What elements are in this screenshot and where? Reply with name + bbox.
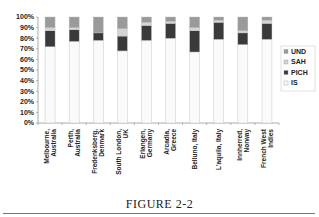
bar-segment-is — [262, 39, 272, 123]
bar-stack — [69, 17, 79, 123]
bar-segment-is — [45, 47, 55, 123]
bar-stack — [190, 17, 200, 123]
bar-segment-sah — [141, 22, 151, 25]
legend-label: PICH — [291, 69, 308, 76]
legend-label: UND — [291, 48, 306, 55]
legend-swatch — [284, 50, 288, 54]
legend-swatch — [284, 60, 288, 64]
y-tick-label: 30% — [20, 88, 35, 95]
bar-segment-is — [93, 40, 103, 123]
y-tick-label: 20% — [20, 98, 35, 105]
bar-segment-und — [117, 17, 127, 29]
bar-segment-und — [93, 17, 103, 33]
bar-segment-pich — [238, 33, 248, 45]
bar-segment-und — [45, 17, 55, 28]
bar-stack — [45, 17, 55, 123]
x-tick-label: Perth,Australia — [67, 129, 81, 157]
svg-text:Germany: Germany — [146, 129, 154, 158]
bar-segment-pich — [93, 33, 103, 40]
x-tick-label: Belluno, Italy — [191, 129, 199, 170]
bar-segment-und — [238, 17, 248, 31]
bar-segment-und — [69, 17, 79, 28]
bar-segment-is — [214, 39, 224, 123]
x-tick-label: French WestIndies — [260, 128, 274, 168]
svg-text:French West: French West — [260, 128, 267, 168]
y-tick-label: 90% — [20, 24, 35, 31]
bar-stack — [93, 17, 103, 123]
bar-segment-pich — [69, 30, 79, 42]
y-tick-label: 80% — [20, 35, 35, 42]
bar-segment-und — [190, 17, 200, 28]
x-tick-label: Erlangen,Germany — [139, 129, 154, 159]
bar-segment-und — [262, 17, 272, 20]
y-tick-label: 70% — [20, 45, 35, 52]
x-tick-labels: Melbourne,AustraliaPerth,AustraliaFreden… — [43, 128, 274, 175]
bar-segment-sah — [262, 20, 272, 23]
figure-caption: FIGURE 2-2 — [0, 197, 319, 212]
svg-text:Denmark: Denmark — [98, 129, 105, 157]
bar-stack — [141, 17, 151, 123]
svg-text:Greece: Greece — [170, 129, 177, 151]
svg-text:Belluno, Italy: Belluno, Italy — [191, 129, 199, 170]
svg-text:Australia: Australia — [74, 129, 81, 157]
x-tick-label: Arcadia,Greece — [163, 129, 177, 155]
x-tick-label: L'aquila, Italy — [215, 129, 223, 170]
y-tick-label: 50% — [20, 66, 35, 73]
y-tick-label: 40% — [20, 77, 35, 84]
stacked-bar-chart: 0%10%20%30%40%50%60%70%80%90%100% Melbou… — [0, 0, 319, 217]
bar-segment-is — [238, 45, 248, 123]
bar-segment-sah — [117, 29, 127, 36]
y-tick-label: 10% — [20, 109, 35, 116]
caption-divider — [3, 213, 315, 214]
bar-segment-is — [166, 38, 176, 123]
bar-segment-sah — [238, 31, 248, 33]
bar-segment-sah — [214, 20, 224, 22]
legend-label: IS — [291, 79, 298, 86]
bar-stack — [166, 17, 176, 123]
y-tick-label: 60% — [20, 56, 35, 63]
x-tick-label: Fredenksberg,Denmark — [91, 129, 105, 174]
bar-stack — [262, 17, 272, 123]
bar-segment-und — [214, 17, 224, 20]
bar-segment-pich — [141, 25, 151, 40]
bar-segment-is — [117, 51, 127, 123]
bar-segment-pich — [190, 31, 200, 52]
bar-segment-sah — [69, 28, 79, 30]
x-tick-label: Melbourne,Australia — [43, 129, 57, 164]
svg-text:Indies: Indies — [267, 129, 274, 148]
bar-segment-pich — [45, 31, 55, 47]
svg-text:L'aquila, Italy: L'aquila, Italy — [215, 129, 223, 170]
bar-segment-is — [141, 40, 151, 123]
svg-text:Norway: Norway — [243, 129, 251, 153]
x-tick-label: South London,UK — [115, 129, 129, 175]
svg-text:Australia: Australia — [50, 129, 57, 157]
svg-text:UK: UK — [122, 129, 129, 139]
bar-segment-sah — [45, 28, 55, 31]
bar-segment-pich — [117, 36, 127, 51]
bar-segment-sah — [166, 21, 176, 23]
bar-segment-is — [69, 41, 79, 123]
bar-stack — [117, 17, 127, 123]
legend-swatch — [284, 71, 288, 75]
legend-swatch — [284, 81, 288, 85]
bar-segment-is — [190, 52, 200, 123]
legend-label: SAH — [291, 58, 306, 65]
y-tick-label: 0% — [24, 119, 35, 126]
bar-stack — [214, 17, 224, 123]
legend: UNDSAHPICHIS — [281, 46, 315, 91]
bar-segment-sah — [190, 28, 200, 31]
y-tick-label: 100% — [16, 13, 35, 20]
bars-group — [45, 17, 272, 123]
bar-segment-und — [141, 17, 151, 22]
bar-segment-pich — [262, 23, 272, 39]
bar-segment-und — [166, 17, 176, 21]
bar-segment-pich — [166, 23, 176, 38]
bar-stack — [238, 17, 248, 123]
x-tick-label: Innherred,Norway — [236, 129, 251, 161]
x-axis — [38, 123, 279, 125]
bar-segment-pich — [214, 22, 224, 39]
y-axis: 0%10%20%30%40%50%60%70%80%90%100% — [16, 13, 38, 126]
